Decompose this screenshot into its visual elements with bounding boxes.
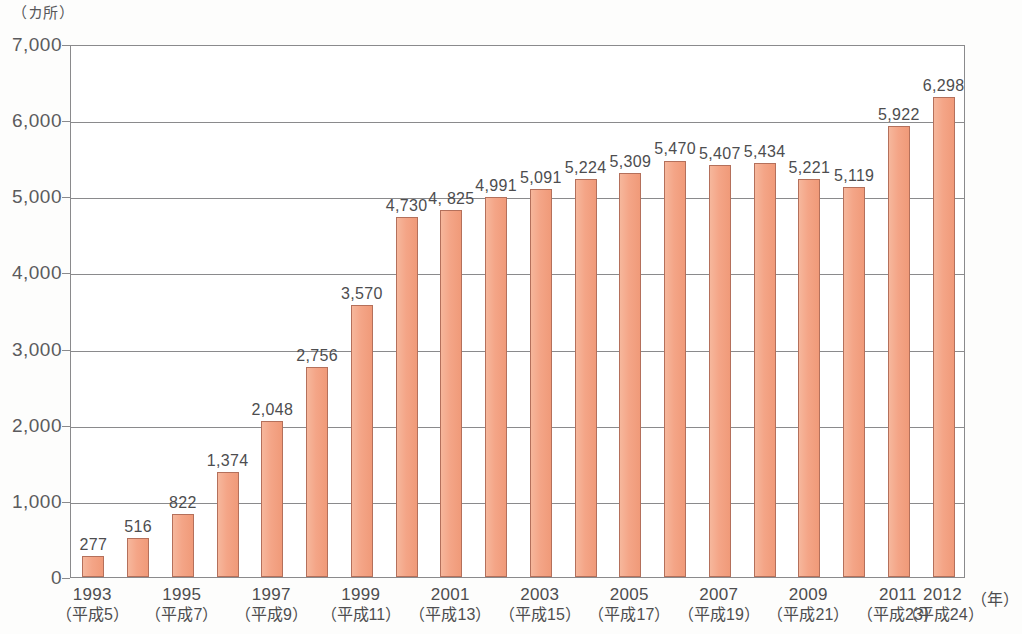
bar [888, 126, 910, 577]
bar [664, 161, 686, 578]
y-axis-unit-label: （カ所） [12, 1, 74, 22]
y-axis-tick-mark [62, 197, 70, 198]
bar [485, 197, 507, 577]
y-axis-tick: 4,000 [0, 262, 62, 284]
bar-value-label: 1,374 [207, 452, 249, 470]
x-axis-unit-label: （年） [971, 586, 1019, 610]
bar-value-label: 5,922 [878, 106, 920, 124]
x-axis-tick-year: 1999 [341, 585, 380, 604]
plot-area: 2775168221,3742,0482,7563,5704,7304, 825… [70, 45, 965, 578]
bar-value-label: 2,048 [252, 401, 294, 419]
bar-value-label: 5,221 [789, 159, 831, 177]
x-axis-tick-year: 2007 [699, 585, 738, 604]
x-axis-tick-year: 2003 [520, 585, 559, 604]
bar-value-label: 5,407 [699, 145, 741, 163]
bar-value-label: 5,119 [834, 167, 874, 185]
x-axis-tick: 1999（平成11） [321, 584, 402, 625]
y-axis-tick: 6,000 [0, 110, 62, 132]
bar-value-label: 4,991 [475, 177, 517, 195]
x-axis-tick-year: 2012 [923, 585, 962, 604]
bar-value-label: 4,730 [386, 197, 428, 215]
bar [82, 556, 104, 577]
x-axis-tick-era: （平成15） [499, 605, 581, 625]
x-axis-tick-year: 2001 [431, 585, 470, 604]
bar-value-label: 2,756 [296, 347, 338, 365]
y-axis-tick-mark [62, 350, 70, 351]
y-axis-tick: 5,000 [0, 186, 62, 208]
y-axis-tick: 3,000 [0, 339, 62, 361]
gridline [71, 503, 964, 504]
x-axis-tick: 2007（平成19） [678, 584, 760, 625]
bar [351, 305, 373, 577]
bar [933, 97, 955, 577]
x-axis-tick-era: （平成17） [588, 605, 670, 625]
y-axis-tick-mark [62, 121, 70, 122]
bar [619, 173, 641, 577]
bar-value-label: 5,224 [565, 159, 607, 177]
y-axis-tick-mark [62, 502, 70, 503]
x-axis-tick: 2005（平成17） [588, 584, 670, 625]
bar-value-label: 3,570 [341, 285, 383, 303]
bar [306, 367, 328, 577]
chart-page: （カ所） 7,0006,0005,0004,0003,0002,0001,000… [0, 0, 1022, 634]
bar [172, 514, 194, 577]
gridline [71, 274, 964, 275]
x-axis-tick: 2003（平成15） [499, 584, 581, 625]
bar-value-label: 5,091 [520, 169, 562, 187]
bar [798, 179, 820, 577]
bar [754, 163, 776, 577]
bar [440, 210, 462, 577]
bar-value-label: 516 [124, 518, 152, 536]
bar-value-label: 4, 825 [428, 190, 474, 208]
x-axis-tick-era: （平成11） [321, 605, 402, 625]
x-axis-tick-year: 2005 [610, 585, 649, 604]
x-axis-tick: 1995（平成7） [145, 584, 218, 625]
y-axis-tick-mark [62, 578, 70, 579]
bar [261, 421, 283, 577]
bar [575, 179, 597, 577]
y-axis-tick: 1,000 [0, 491, 62, 513]
bar-value-label: 822 [169, 494, 197, 512]
x-axis-tick-era: （平成9） [235, 605, 308, 625]
x-axis-tick-era: （平成21） [767, 605, 849, 625]
y-axis-tick: 0 [0, 567, 62, 589]
bar-value-label: 5,309 [610, 153, 652, 171]
y-axis-tick: 2,000 [0, 415, 62, 437]
y-axis-tick-mark [62, 273, 70, 274]
gridline [71, 198, 964, 199]
x-axis-tick-era: （平成5） [56, 605, 129, 625]
x-axis-tick: 1997（平成9） [235, 584, 308, 625]
x-axis-tick-era: （平成19） [678, 605, 760, 625]
x-axis-tick-year: 1993 [73, 585, 112, 604]
x-axis-tick-era: （平成13） [409, 605, 491, 625]
gridline [71, 122, 964, 123]
bar-value-label: 6,298 [923, 77, 965, 95]
bar [217, 472, 239, 577]
x-axis-tick: 2009（平成21） [767, 584, 849, 625]
bar-value-label: 5,434 [744, 143, 786, 161]
y-axis-tick: 7,000 [0, 34, 62, 56]
x-axis-tick: 1993（平成5） [56, 584, 129, 625]
bar-value-label: 277 [80, 536, 108, 554]
bar [530, 189, 552, 577]
x-axis-tick-year: 1995 [162, 585, 201, 604]
gridline [71, 351, 964, 352]
bar [396, 217, 418, 577]
x-axis-tick-era: （平成7） [145, 605, 218, 625]
gridline [71, 427, 964, 428]
bar [127, 538, 149, 577]
bar-value-label: 5,470 [654, 140, 696, 158]
bar [843, 187, 865, 577]
x-axis-tick: 2001（平成13） [409, 584, 491, 625]
y-axis-tick-mark [62, 426, 70, 427]
x-axis-tick-year: 2009 [789, 585, 828, 604]
bar [709, 165, 731, 577]
x-axis-tick-year: 1997 [252, 585, 291, 604]
y-axis-tick-mark [62, 45, 70, 46]
